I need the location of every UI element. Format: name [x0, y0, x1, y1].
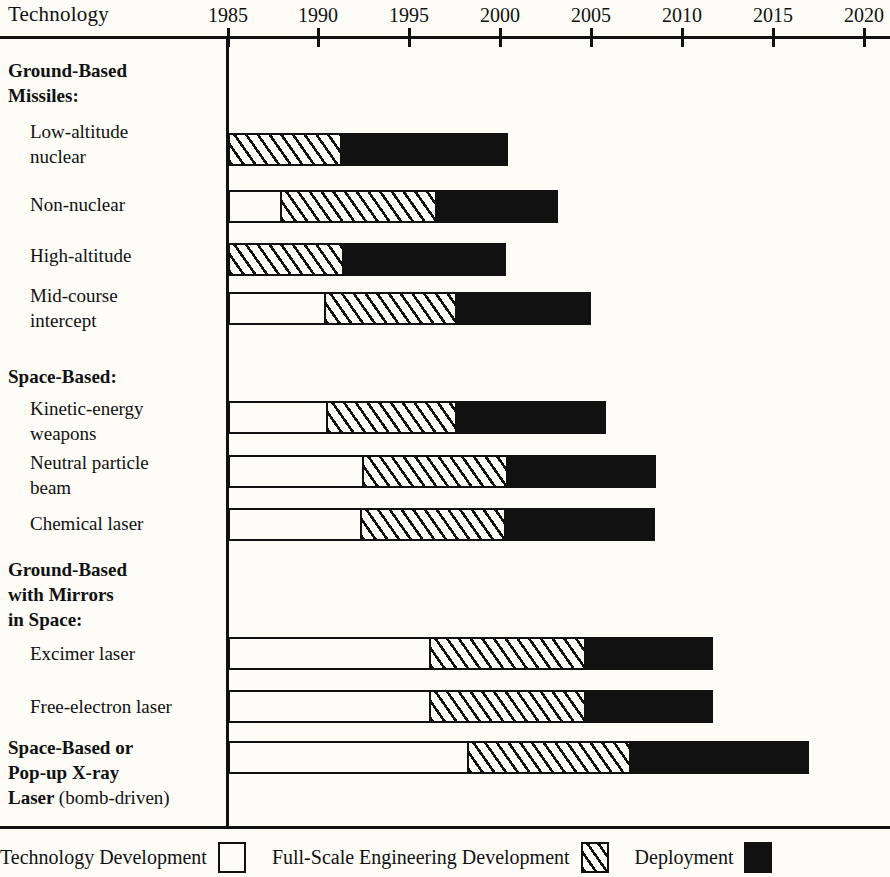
bar-segment-tech [228, 292, 326, 325]
row-label-excimer-laser: Excimer laser [30, 641, 135, 666]
sdi-technology-timeline-chart: Technology 19851990199520002005201020152… [0, 0, 890, 877]
bar-segment-deploy [506, 508, 655, 541]
bar-segment-deploy [344, 243, 506, 276]
axis-year-label-2000: 2000 [480, 4, 520, 27]
bar-segment-deploy [508, 455, 657, 488]
bar-segment-deploy [437, 190, 559, 223]
bar-segment-tech [228, 190, 282, 223]
bar-segment-deploy [342, 133, 507, 166]
bar-segment-tech [228, 401, 328, 434]
timeline-bar [228, 190, 558, 223]
bar-segment-tech [228, 690, 431, 723]
axis-year-label-2005: 2005 [571, 4, 611, 27]
axis-tick-2000 [499, 28, 502, 47]
axis-horizontal-line [0, 36, 890, 39]
bar-segment-fsed [431, 637, 585, 670]
group-label-space-based: Space-Based: [8, 364, 117, 389]
timeline-bar [228, 508, 655, 541]
axis-year-label-1985: 1985 [208, 4, 248, 27]
bar-segment-tech [228, 455, 364, 488]
bar-segment-deploy [586, 637, 713, 670]
timeline-bar [228, 741, 809, 774]
legend-label: Full-Scale Engineering Development [272, 846, 570, 869]
row-label-mid-course-intercept: Mid-course intercept [30, 283, 118, 333]
bar-segment-deploy [457, 292, 591, 325]
group-label-ground-based-missiles: Ground-Based Missiles: [8, 58, 127, 108]
bar-segment-fsed [431, 690, 585, 723]
axis-tick-2020 [863, 28, 866, 47]
axis-year-label-1995: 1995 [389, 4, 429, 27]
legend-item-deploy: Deployment [635, 842, 773, 873]
bar-segment-tech [228, 741, 469, 774]
axis-year-label-2015: 2015 [753, 4, 793, 27]
legend-swatch-fsed [581, 842, 609, 873]
row-label-free-electron-laser: Free-electron laser [30, 694, 172, 719]
bar-segment-fsed [228, 133, 342, 166]
timeline-bar [228, 243, 506, 276]
bar-segment-fsed [362, 508, 505, 541]
chart-bottom-rule [0, 826, 890, 829]
timeline-bar [228, 292, 591, 325]
bar-segment-deploy [586, 690, 713, 723]
axis-tick-2005 [590, 28, 593, 47]
legend-swatch-deploy [744, 842, 772, 873]
axis-tick-2010 [681, 28, 684, 47]
row-label-kinetic-energy-weapons: Kinetic-energy weapons [30, 396, 144, 446]
axis-year-label-2020: 2020 [844, 4, 884, 27]
legend-item-tech: Technology Development [0, 842, 246, 873]
axis-tick-1995 [408, 28, 411, 47]
axis-row-title: Technology [8, 2, 109, 27]
chart-legend: Technology DevelopmentFull-Scale Enginee… [0, 838, 890, 876]
legend-item-fsed: Full-Scale Engineering Development [272, 842, 609, 873]
bar-segment-fsed [228, 243, 344, 276]
bar-segment-deploy [631, 741, 809, 774]
bar-segment-fsed [282, 190, 436, 223]
bar-segment-fsed [364, 455, 507, 488]
row-label-non-nuclear: Non-nuclear [30, 192, 125, 217]
legend-label: Technology Development [0, 846, 207, 869]
timeline-bar [228, 637, 713, 670]
row-label-high-altitude: High-altitude [30, 243, 131, 268]
bar-segment-deploy [457, 401, 606, 434]
axis-year-label-1990: 1990 [298, 4, 338, 27]
row-label-neutral-particle-beam: Neutral particle beam [30, 450, 149, 500]
row-label-chemical-laser: Chemical laser [30, 511, 143, 536]
group-label-xray-laser: Space-Based or Pop-up X-ray Laser (bomb-… [8, 735, 170, 810]
row-label-low-altitude-nuclear: Low-altitude nuclear [30, 119, 128, 169]
timeline-bar [228, 133, 508, 166]
bar-segment-fsed [469, 741, 631, 774]
timeline-bar [228, 690, 713, 723]
bar-segment-tech [228, 637, 431, 670]
bar-segment-fsed [326, 292, 457, 325]
group-label-ground-based-mirrors: Ground-Based with Mirrors in Space: [8, 557, 127, 632]
axis-tick-2015 [772, 28, 775, 47]
axis-year-label-2010: 2010 [662, 4, 702, 27]
bar-segment-tech [228, 508, 362, 541]
timeline-bar [228, 401, 606, 434]
timeline-bar [228, 455, 656, 488]
legend-label: Deployment [635, 846, 734, 869]
bar-segment-fsed [328, 401, 457, 434]
legend-swatch-tech [218, 842, 246, 873]
axis-tick-1990 [317, 28, 320, 47]
